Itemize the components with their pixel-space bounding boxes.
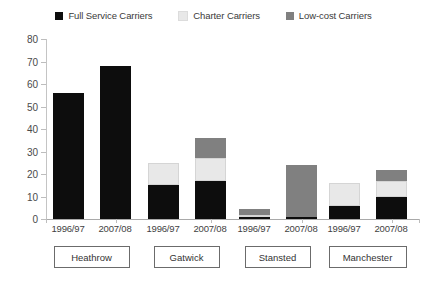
bar-segment-charter <box>148 163 179 186</box>
stacked-bar <box>53 93 84 219</box>
bar-slot <box>376 39 407 219</box>
y-tick-label: 40 <box>27 124 38 135</box>
bar-slot <box>195 39 226 219</box>
stacked-bar <box>148 163 179 219</box>
x-axis-tick <box>419 219 420 223</box>
stacked-bar <box>329 183 360 219</box>
y-tick-label: 60 <box>27 79 38 90</box>
legend-label: Charter Carriers <box>193 10 260 21</box>
bar-segment-charter <box>376 181 407 197</box>
bar-slot <box>100 39 131 219</box>
x-axis-label: 1996/97 <box>147 223 180 234</box>
legend-label: Full Service Carriers <box>68 10 152 21</box>
bar-segment-full-service <box>376 197 407 220</box>
y-gridline <box>46 219 419 220</box>
stacked-bar <box>100 66 131 219</box>
y-axis-tick <box>41 152 46 153</box>
x-axis-labels: 1996/972007/081996/972007/081996/972007/… <box>46 223 419 239</box>
airport-group-box: Stansted <box>245 246 311 268</box>
stacked-bar <box>286 165 317 219</box>
legend-item: Full Service Carriers <box>55 10 152 21</box>
bar-slot <box>329 39 360 219</box>
y-tick-label: 70 <box>27 56 38 67</box>
bar-segment-full-service <box>53 93 84 219</box>
airport-group-label: Stansted <box>259 252 297 263</box>
y-tick-label: 50 <box>27 101 38 112</box>
airport-group-boxes: HeathrowGatwickStanstedManchester <box>46 246 419 272</box>
y-tick-label: 80 <box>27 34 38 45</box>
airport-group-box: Gatwick <box>154 246 220 268</box>
legend-label: Low-cost Carriers <box>299 10 372 21</box>
stacked-bar <box>195 138 226 219</box>
y-tick-label: 10 <box>27 191 38 202</box>
airport-group-label: Heathrow <box>71 252 112 263</box>
legend-item: Low-cost Carriers <box>286 10 372 21</box>
bar-segment-full-service <box>239 217 270 219</box>
x-axis-label: 2007/08 <box>285 223 318 234</box>
bar-segment-low-cost <box>376 170 407 181</box>
bar-segment-charter <box>329 183 360 206</box>
bar-segment-low-cost <box>286 165 317 217</box>
legend-swatch-icon <box>55 12 63 20</box>
airport-group-label: Manchester <box>343 252 393 263</box>
bar-slot <box>239 39 270 219</box>
bar-slot <box>286 39 317 219</box>
x-axis-label: 1996/97 <box>52 223 85 234</box>
plot-area: 01020304050607080 <box>46 39 419 219</box>
x-axis-label: 1996/97 <box>328 223 361 234</box>
chart-legend: Full Service CarriersCharter CarriersLow… <box>0 10 427 21</box>
y-axis-tick <box>41 129 46 130</box>
bar-segment-low-cost <box>195 138 226 158</box>
stacked-bar <box>239 209 270 219</box>
x-axis-label: 1996/97 <box>238 223 271 234</box>
x-axis-label: 2007/08 <box>375 223 408 234</box>
bar-slot <box>53 39 84 219</box>
y-axis-tick <box>41 197 46 198</box>
y-axis-tick <box>41 39 46 40</box>
legend-item: Charter Carriers <box>178 10 260 21</box>
y-axis-tick <box>41 62 46 63</box>
bar-segment-full-service <box>148 185 179 219</box>
bar-slot <box>148 39 179 219</box>
x-axis-label: 2007/08 <box>99 223 132 234</box>
x-axis-label: 2007/08 <box>194 223 227 234</box>
airport-group-label: Gatwick <box>170 252 204 263</box>
stacked-bar <box>376 170 407 220</box>
airport-group-box: Heathrow <box>54 246 130 268</box>
bar-segment-full-service <box>329 206 360 220</box>
y-axis-tick <box>41 174 46 175</box>
bar-chart: Full Service CarriersCharter CarriersLow… <box>0 0 427 285</box>
y-tick-label: 20 <box>27 169 38 180</box>
legend-swatch-icon <box>178 11 188 21</box>
y-tick-label: 0 <box>32 214 38 225</box>
y-axis-tick <box>41 84 46 85</box>
y-axis-tick <box>41 107 46 108</box>
legend-swatch-icon <box>286 12 294 20</box>
airport-group-box: Manchester <box>329 246 407 268</box>
bar-segment-charter <box>195 158 226 181</box>
bar-segment-full-service <box>195 181 226 219</box>
bar-segment-full-service <box>100 66 131 219</box>
y-tick-label: 30 <box>27 146 38 157</box>
